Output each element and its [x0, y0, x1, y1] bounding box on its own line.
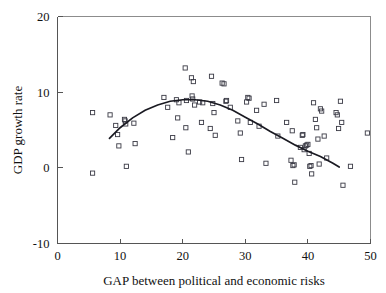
data-point-marker: [192, 103, 196, 107]
data-point-marker: [336, 126, 340, 130]
data-point-marker: [322, 134, 326, 138]
x-tick-label: 40: [302, 249, 315, 263]
data-point-marker: [315, 126, 319, 130]
data-point-marker: [166, 105, 170, 109]
plot-frame: [58, 17, 371, 244]
x-tick-label: 20: [176, 249, 189, 263]
data-point-marker: [132, 121, 136, 125]
data-point-marker: [238, 131, 242, 135]
data-point-marker: [311, 101, 315, 105]
data-point-marker: [90, 111, 94, 115]
data-point-marker: [213, 133, 217, 137]
data-point-marker: [176, 116, 180, 120]
data-point-marker: [293, 180, 297, 184]
data-point-marker: [114, 123, 118, 127]
data-point-marker: [184, 126, 188, 130]
data-point-marker: [183, 66, 187, 70]
axis-tick-labels: 01020304050-1001020: [33, 10, 377, 263]
data-point-marker: [316, 137, 320, 141]
x-tick-label: 10: [114, 249, 127, 263]
data-point-marker: [285, 120, 289, 124]
data-point-marker: [171, 135, 175, 139]
data-point-marker: [262, 102, 266, 106]
data-point-marker: [186, 150, 190, 154]
y-axis-title: GDP growth rate: [10, 86, 25, 175]
data-point-marker: [290, 129, 294, 133]
data-point-marker: [289, 158, 293, 162]
data-point-marker: [313, 117, 317, 121]
x-tick-label: 50: [364, 249, 377, 263]
data-point-marker: [199, 120, 203, 124]
data-point-marker: [239, 157, 243, 161]
data-point-marker: [133, 142, 137, 146]
data-point-marker: [209, 74, 213, 78]
axis-ticks: [58, 17, 371, 244]
data-point-marker: [124, 164, 128, 168]
data-point-marker: [212, 111, 216, 115]
x-tick-label: 30: [239, 249, 252, 263]
chart-figure: 01020304050-1001020 GAP between politica…: [0, 0, 386, 293]
data-point-marker: [116, 132, 120, 136]
data-point-marker: [348, 164, 352, 168]
x-axis-title: GAP between political and economic risks: [103, 273, 325, 288]
data-point-marker: [317, 162, 321, 166]
data-point-marker: [208, 126, 212, 130]
y-tick-label: 0: [43, 161, 49, 175]
data-point-marker: [341, 183, 345, 187]
data-point-marker: [365, 131, 369, 135]
data-point-marker: [236, 119, 240, 123]
data-point-marker: [162, 95, 166, 99]
y-tick-label: 10: [37, 86, 50, 100]
x-tick-label: 0: [54, 249, 60, 263]
scatter-plot-svg: 01020304050-1001020 GAP between politica…: [0, 0, 386, 293]
data-point-marker: [275, 98, 279, 102]
data-point-marker: [117, 144, 121, 148]
data-point-marker: [310, 172, 314, 176]
data-point-marker: [338, 99, 342, 103]
data-point-marker: [340, 120, 344, 124]
y-tick-label: -10: [33, 237, 50, 251]
data-point-marker: [254, 108, 258, 112]
y-tick-label: 20: [37, 10, 50, 24]
data-points-group: [90, 66, 369, 187]
data-point-marker: [264, 161, 268, 165]
data-point-marker: [90, 171, 94, 175]
data-point-marker: [108, 113, 112, 117]
